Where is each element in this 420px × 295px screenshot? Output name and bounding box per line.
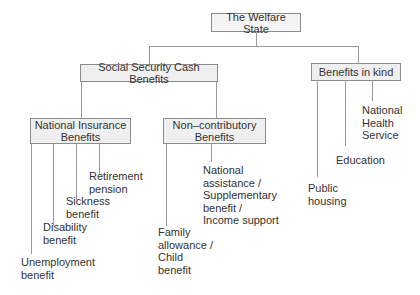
- leaf-line: allowance /: [158, 239, 213, 252]
- connector: [53, 144, 54, 226]
- leaf-line: National: [203, 164, 279, 177]
- leaf-line: Disability: [43, 221, 87, 234]
- national-assistance-leaf: National assistance / Supplementary bene…: [203, 164, 279, 227]
- leaf-line: assistance /: [203, 177, 279, 190]
- leaf-line: benefit: [43, 234, 87, 247]
- leaf-line: housing: [308, 195, 347, 208]
- connector: [216, 82, 217, 118]
- leaf-line: pension: [89, 183, 143, 196]
- public-housing-leaf: Public housing: [308, 182, 347, 207]
- leaf-line: Family: [158, 226, 213, 239]
- welfare-state-node: The Welfare State: [211, 13, 301, 32]
- leaf-line: Child: [158, 251, 213, 264]
- national-insurance-label-line1: National Insurance: [35, 119, 127, 131]
- disability-benefit-leaf: Disability benefit: [43, 221, 87, 246]
- leaf-line: benefit: [66, 208, 110, 221]
- connector: [31, 144, 32, 254]
- national-health-service-leaf: National Health Service: [362, 104, 402, 142]
- leaf-line: National: [362, 104, 402, 117]
- social-security-cash-benefits-node: Social Security Cash Benefits: [80, 64, 218, 82]
- leaf-line: benefit /: [203, 202, 279, 215]
- connector: [345, 81, 346, 146]
- retirement-pension-leaf: Retirement pension: [89, 170, 143, 195]
- social-security-label: Social Security Cash Benefits: [81, 61, 217, 85]
- non-contributory-label-line2: Benefits: [195, 131, 235, 143]
- connector: [256, 32, 257, 46]
- leaf-line: Supplementary: [203, 189, 279, 202]
- connector: [372, 81, 373, 101]
- connector: [358, 46, 359, 63]
- leaf-line: Sickness: [66, 195, 110, 208]
- connector: [81, 82, 82, 118]
- leaf-line: Education: [336, 154, 385, 167]
- family-allowance-leaf: Family allowance / Child benefit: [158, 226, 213, 276]
- leaf-line: Health: [362, 117, 402, 130]
- national-insurance-benefits-node: National Insurance Benefits: [30, 118, 131, 144]
- connector: [76, 144, 77, 200]
- non-contributory-benefits-node: Non–contributory Benefits: [163, 118, 266, 144]
- benefits-in-kind-node: Benefits in kind: [311, 63, 401, 81]
- leaf-line: Unemployment: [21, 256, 95, 269]
- leaf-line: Retirement: [89, 170, 143, 183]
- leaf-line: Income support: [203, 214, 279, 227]
- leaf-line: benefit: [21, 269, 95, 282]
- leaf-line: Public: [308, 182, 347, 195]
- national-insurance-label-line2: Benefits: [61, 131, 101, 143]
- connector: [166, 144, 167, 226]
- benefits-in-kind-label: Benefits in kind: [319, 66, 394, 78]
- leaf-line: benefit: [158, 264, 213, 277]
- unemployment-benefit-leaf: Unemployment benefit: [21, 256, 95, 281]
- non-contributory-label-line1: Non–contributory: [173, 119, 257, 131]
- connector: [211, 144, 212, 162]
- welfare-state-label: The Welfare State: [212, 11, 300, 35]
- connector: [317, 81, 318, 177]
- leaf-line: Service: [362, 129, 402, 142]
- education-leaf: Education: [336, 154, 385, 167]
- connector: [149, 46, 359, 47]
- sickness-benefit-leaf: Sickness benefit: [66, 195, 110, 220]
